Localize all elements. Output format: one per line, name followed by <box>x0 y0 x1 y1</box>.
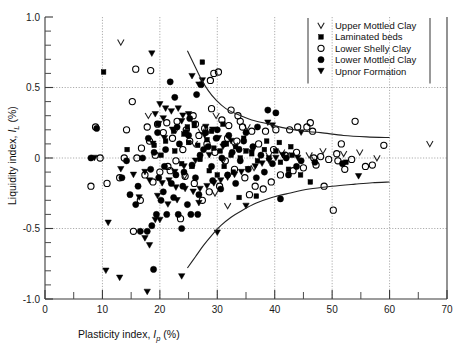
data-point <box>151 149 157 155</box>
data-point <box>265 107 271 113</box>
data-point <box>218 186 224 192</box>
data-point <box>164 211 170 217</box>
scatter-plot: -1.0-0.500.51.0010203040506070 Upper Mot… <box>0 0 465 353</box>
data-point <box>218 178 224 184</box>
data-point <box>105 220 111 226</box>
data-point <box>135 183 141 189</box>
data-point <box>237 118 243 124</box>
data-point <box>173 158 179 164</box>
data-point <box>196 132 202 138</box>
legend-label: Upnor Formation <box>335 66 406 77</box>
legend-layer: Upper Mottled ClayLaminated bedsLower Sh… <box>308 18 430 84</box>
data-point <box>157 217 163 223</box>
data-point <box>258 152 264 158</box>
data-point <box>123 127 129 133</box>
data-point <box>312 159 318 165</box>
data-point <box>214 230 220 236</box>
legend-label: Upper Mottled Clay <box>335 20 417 31</box>
data-point <box>262 128 268 134</box>
data-point <box>241 138 247 144</box>
data-point <box>288 144 293 149</box>
data-point <box>197 186 203 192</box>
data-point <box>229 149 235 155</box>
data-point <box>173 185 179 191</box>
y-tick-label: -1.0 <box>23 294 41 305</box>
y-tick-label: 0 <box>34 153 40 164</box>
data-point <box>252 183 258 189</box>
legend-marker-vee <box>318 23 324 29</box>
data-point <box>176 141 182 147</box>
data-point <box>206 189 212 195</box>
data-point <box>254 124 260 130</box>
data-point <box>154 130 160 136</box>
y-tick-label: 1.0 <box>26 12 40 23</box>
data-point <box>339 161 345 167</box>
data-point <box>326 156 332 162</box>
data-point <box>163 146 169 152</box>
data-point <box>268 179 274 185</box>
legend-marker-square <box>319 35 324 40</box>
legend-item-vee[interactable]: Upper Mottled Clay <box>318 20 417 31</box>
data-point <box>156 175 162 181</box>
data-point <box>321 183 327 189</box>
data-point <box>207 77 213 83</box>
data-point <box>146 243 152 249</box>
data-point <box>180 146 186 152</box>
legend-item-circle-filled[interactable]: Lower Mottled Clay <box>318 54 417 65</box>
data-point <box>308 180 313 185</box>
data-point <box>206 152 212 158</box>
x-tick-label: 0 <box>42 304 48 315</box>
data-point <box>256 141 262 147</box>
data-point <box>178 274 184 280</box>
data-point <box>242 175 248 181</box>
data-layer <box>88 40 433 295</box>
data-point <box>246 192 252 198</box>
data-point <box>260 186 266 192</box>
x-axis-title: Plasticity index, Ip (%) <box>78 328 180 343</box>
x-tick-label: 50 <box>327 304 339 315</box>
data-point <box>261 169 267 175</box>
data-point <box>293 163 299 169</box>
data-point <box>213 113 219 119</box>
data-point <box>237 158 243 164</box>
data-point <box>175 106 181 112</box>
data-point <box>153 211 159 217</box>
data-point <box>144 289 150 295</box>
data-point <box>300 165 306 171</box>
data-point <box>342 166 348 172</box>
data-point <box>130 172 136 178</box>
data-point <box>118 166 124 172</box>
data-point <box>160 130 166 136</box>
data-point <box>200 146 206 152</box>
data-point <box>243 130 249 136</box>
data-point <box>285 172 291 178</box>
data-point <box>125 147 130 152</box>
data-point <box>259 161 265 167</box>
data-point <box>362 163 368 169</box>
data-point <box>129 99 135 105</box>
data-point <box>320 148 326 154</box>
data-point <box>142 236 148 242</box>
data-point <box>140 155 146 161</box>
data-point <box>233 180 239 186</box>
data-point <box>116 275 122 281</box>
data-point <box>133 201 139 207</box>
data-point <box>226 122 232 128</box>
data-point <box>164 120 170 126</box>
data-point <box>278 160 283 165</box>
data-point <box>118 40 124 46</box>
data-point <box>195 143 200 148</box>
data-point <box>144 228 150 234</box>
data-point <box>253 175 259 181</box>
data-point <box>181 164 187 170</box>
data-point <box>167 79 173 85</box>
data-point <box>208 163 214 169</box>
data-point <box>226 132 232 138</box>
legend-item-square[interactable]: Laminated beds <box>319 31 403 42</box>
data-point <box>168 109 174 115</box>
data-point <box>94 125 100 131</box>
data-point <box>355 174 361 180</box>
data-point <box>158 197 164 203</box>
data-point <box>172 94 178 100</box>
legend-item-triangle-down[interactable]: Upnor Formation <box>318 66 406 77</box>
